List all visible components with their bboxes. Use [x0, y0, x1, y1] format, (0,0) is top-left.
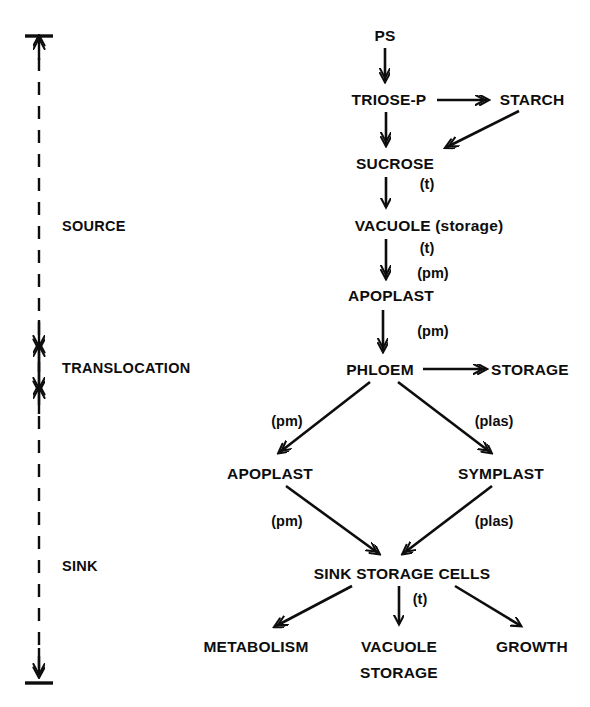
arrow-starch-to-sucrose [447, 111, 519, 147]
node-phloem: PHLOEM [346, 361, 414, 378]
zone-label-source: SOURCE [62, 218, 126, 234]
arrow-cells-to-growth [455, 586, 521, 626]
node-growth: GROWTH [496, 638, 568, 655]
edge-label-sucrose-transporter: (t) [420, 176, 435, 192]
node-sink-storage-cells: SINK STORAGE CELLS [314, 565, 490, 582]
edge-label-phloem-to-apoplast-pm: (pm) [271, 413, 302, 429]
edge-label-vacuole-transporter: (t) [420, 240, 435, 256]
node-vacuole: VACUOLE [361, 638, 437, 655]
zone-label-translocation: TRANSLOCATION [62, 360, 190, 376]
zone-label-sink: SINK [62, 558, 98, 574]
flow-arrows [276, 48, 521, 626]
edge-label-vacuole-plasmamembrane: (pm) [417, 265, 448, 281]
node-ps: PS [374, 27, 395, 44]
node-apoplast-sink: APOPLAST [227, 465, 313, 482]
arrow-cells-to-metabolism [276, 586, 352, 626]
edge-label-phloem-to-symplast-plas: (plas) [475, 413, 514, 429]
edge-label-apoplast-plasmamembrane: (pm) [417, 323, 448, 339]
node-triose-p: TRIOSE-P [352, 91, 427, 108]
edge-label-symplast-to-cells-plas: (plas) [475, 513, 514, 529]
node-symplast: SYMPLAST [458, 465, 544, 482]
phase-axis-graphics [25, 36, 53, 683]
node-vacuole-storage: VACUOLE (storage) [355, 217, 504, 234]
flow-diagram: SOURCE TRANSLOCATION SINK PS TRIOSE-P ST… [0, 0, 590, 707]
node-metabolism: METABOLISM [203, 638, 308, 655]
node-vacuole-storage-line2: STORAGE [360, 664, 438, 681]
node-apoplast-source: APOPLAST [348, 287, 434, 304]
node-starch: STARCH [500, 91, 565, 108]
edge-label-apoplast-to-cells-pm: (pm) [271, 513, 302, 529]
edge-label-cells-to-vacuole-transporter: (t) [413, 591, 428, 607]
node-storage: STORAGE [491, 361, 569, 378]
node-sucrose: SUCROSE [356, 155, 434, 172]
